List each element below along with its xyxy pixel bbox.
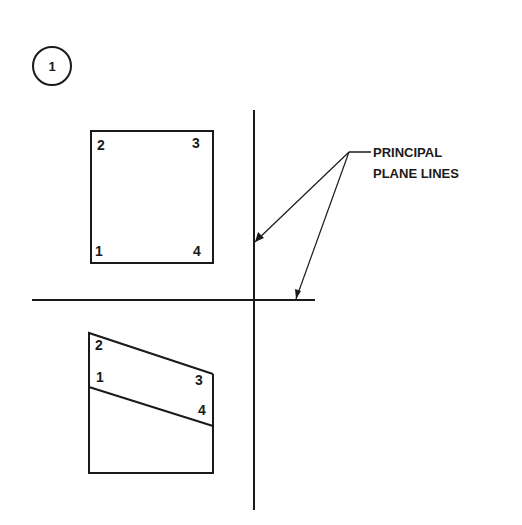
- front-view-label-1: 1: [96, 369, 104, 385]
- front-view-plane-edge: [89, 387, 213, 426]
- top-view-label-4: 4: [193, 243, 201, 259]
- leader-to-vertical: [255, 152, 349, 242]
- callout-label-line1: PRINCIPAL: [373, 145, 442, 160]
- front-view: 2 1 3 4: [89, 333, 213, 473]
- front-view-label-4: 4: [198, 402, 206, 418]
- leader-to-horizontal: [296, 152, 349, 299]
- step-number-badge: 1: [33, 47, 71, 85]
- front-view-outline: [89, 333, 213, 473]
- top-view-label-3: 3: [192, 135, 200, 151]
- step-number: 1: [48, 59, 55, 74]
- front-view-label-3: 3: [195, 372, 203, 388]
- callout-label-line2: PLANE LINES: [373, 166, 459, 181]
- arrow-head-icon: [295, 289, 301, 299]
- principal-plane-diagram: 1 2 3 1 4 2 1 3 4 PRINCIPAL PLANE LINES: [0, 0, 522, 525]
- arrow-head-icon: [255, 232, 264, 242]
- top-view: 2 3 1 4: [91, 131, 213, 263]
- front-view-label-2: 2: [95, 337, 103, 353]
- top-view-label-1: 1: [95, 243, 103, 259]
- top-view-label-2: 2: [97, 137, 105, 153]
- callout-leaders: [255, 152, 371, 299]
